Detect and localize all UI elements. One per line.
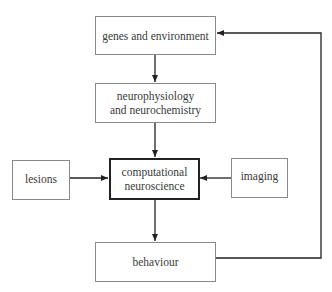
node-label: genes and environment: [102, 29, 209, 43]
node-behaviour: behaviour: [95, 242, 216, 282]
node-computational-neuroscience: computational neuroscience: [109, 158, 200, 200]
node-label: and neurochemistry: [110, 103, 201, 117]
node-label: lesions: [25, 172, 57, 186]
arrow-behaviour-to-genes: [216, 33, 321, 258]
node-label: neurophysiology: [117, 89, 194, 103]
node-label: neuroscience: [124, 179, 184, 193]
node-imaging: imaging: [231, 158, 288, 198]
node-label: computational: [122, 165, 188, 179]
node-neurophysiology: neurophysiology and neurochemistry: [95, 83, 216, 123]
node-lesions: lesions: [12, 160, 70, 200]
node-label: imaging: [241, 169, 279, 183]
node-genes-and-environment: genes and environment: [95, 16, 216, 55]
node-label: behaviour: [133, 255, 179, 269]
